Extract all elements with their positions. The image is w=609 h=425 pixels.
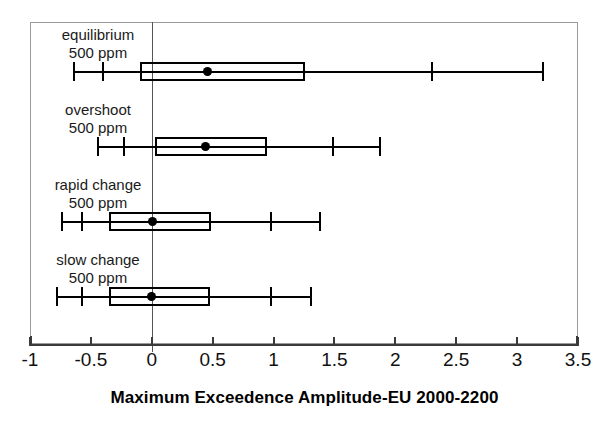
x-tick bbox=[90, 337, 92, 346]
whisker-cap-high bbox=[542, 62, 544, 81]
x-tick bbox=[516, 337, 518, 346]
whisker-cap-high bbox=[310, 287, 312, 306]
x-tick-label: -1 bbox=[22, 349, 39, 371]
box-plot-row bbox=[0, 127, 609, 167]
tick-cap-low bbox=[102, 62, 104, 81]
box-plot-row bbox=[0, 277, 609, 317]
box-iqr bbox=[109, 287, 210, 306]
x-axis-line bbox=[30, 344, 578, 346]
box-iqr bbox=[140, 62, 306, 81]
box-plot-row bbox=[0, 52, 609, 92]
x-tick-label: 2.5 bbox=[443, 349, 469, 371]
box-plot-row bbox=[0, 202, 609, 242]
x-tick-label: 1.5 bbox=[321, 349, 347, 371]
x-tick-label: 2 bbox=[390, 349, 401, 371]
group-label-line1: slow change bbox=[56, 251, 139, 268]
tick-cap-high bbox=[431, 62, 433, 81]
x-tick bbox=[273, 337, 275, 346]
whisker-cap-low bbox=[61, 212, 63, 231]
tick-cap-high bbox=[270, 287, 272, 306]
x-tick bbox=[455, 337, 457, 346]
box-iqr bbox=[155, 137, 267, 156]
whisker-cap-low bbox=[56, 287, 58, 306]
group-label-line1: equilibrium bbox=[62, 26, 135, 43]
x-tick bbox=[29, 337, 31, 346]
box-iqr bbox=[109, 212, 211, 231]
x-axis-title: Maximum Exceedence Amplitude-EU 2000-220… bbox=[0, 388, 609, 408]
tick-cap-high bbox=[270, 212, 272, 231]
tick-cap-low bbox=[123, 137, 125, 156]
x-tick-label: 3 bbox=[512, 349, 523, 371]
x-tick bbox=[212, 337, 214, 346]
x-tick bbox=[151, 337, 153, 346]
x-tick-label: 0.5 bbox=[199, 349, 225, 371]
whisker-cap-high bbox=[319, 212, 321, 231]
x-tick-label: 0 bbox=[146, 349, 157, 371]
box-plot-chart: equilibrium500 ppmovershoot500 ppmrapid … bbox=[0, 0, 609, 425]
whisker-cap-low bbox=[97, 137, 99, 156]
tick-cap-low bbox=[81, 212, 83, 231]
x-tick-label: 1 bbox=[268, 349, 279, 371]
x-tick bbox=[333, 337, 335, 346]
x-tick-label: -0.5 bbox=[75, 349, 108, 371]
group-label-line1: rapid change bbox=[55, 176, 142, 193]
mean-marker bbox=[201, 142, 210, 151]
whisker-cap-high bbox=[379, 137, 381, 156]
x-tick bbox=[577, 337, 579, 346]
group-label-line1: overshoot bbox=[65, 101, 131, 118]
x-tick-label: 3.5 bbox=[565, 349, 591, 371]
tick-cap-high bbox=[332, 137, 334, 156]
x-tick bbox=[394, 337, 396, 346]
tick-cap-low bbox=[81, 287, 83, 306]
whisker-cap-low bbox=[73, 62, 75, 81]
